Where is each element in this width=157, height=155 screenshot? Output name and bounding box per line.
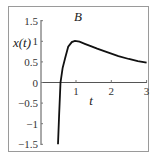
y-tick-label: 1.5 xyxy=(24,15,38,27)
x-tick-label: 3 xyxy=(144,85,150,97)
x-tick-label: 2 xyxy=(109,85,115,97)
y-tick-label: 0 xyxy=(33,77,39,89)
y-tick-label: −1 xyxy=(26,118,38,130)
x-tick-label: 1 xyxy=(73,85,79,97)
y-tick-label: −1.5 xyxy=(18,138,38,150)
chart-title: B xyxy=(74,9,82,24)
line-chart: 1.510.50−0.5−1−1.5 123 B t x(t) xyxy=(0,0,157,155)
y-tick-label: 0.5 xyxy=(24,56,38,68)
data-line xyxy=(58,41,147,144)
y-axis-label: x(t) xyxy=(12,35,31,50)
x-axis-label: t xyxy=(89,93,93,108)
y-tick-label: 1 xyxy=(33,35,39,47)
y-tick-label: −0.5 xyxy=(18,97,38,109)
